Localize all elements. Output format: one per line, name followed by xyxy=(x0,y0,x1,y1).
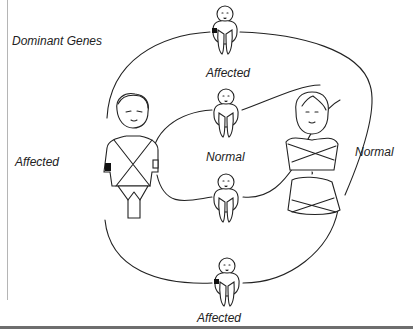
child-top-label: Affected xyxy=(206,66,250,80)
child-middle-lower xyxy=(214,174,238,222)
middle-children-label: Normal xyxy=(206,150,245,164)
mother-figure xyxy=(286,92,340,215)
dominant-gene-marker xyxy=(212,28,217,33)
mother-label: Normal xyxy=(355,145,394,159)
father-label: Affected xyxy=(15,155,59,169)
child-top xyxy=(212,6,237,54)
dominant-gene-marker xyxy=(214,279,219,284)
inheritance-diagram xyxy=(0,0,413,334)
child-middle-upper xyxy=(214,89,238,137)
dominant-gene-marker xyxy=(105,163,111,171)
father-figure xyxy=(104,94,158,218)
diagram-title: Dominant Genes xyxy=(12,34,102,48)
child-bottom xyxy=(214,258,239,306)
child-bottom-label: Affected xyxy=(197,311,241,325)
